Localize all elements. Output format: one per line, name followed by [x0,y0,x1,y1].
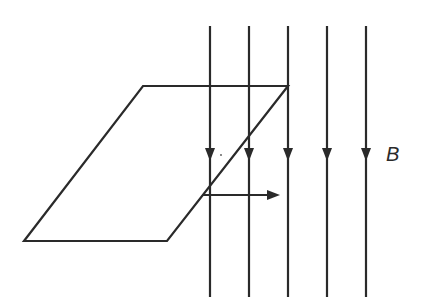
arrow-down-icon [244,148,254,161]
dot-mark [220,154,222,156]
magnetic-field-diagram [0,0,428,302]
arrow-down-icon [361,148,371,161]
arrow-down-icon [283,148,293,161]
field-label-b: B [386,144,399,164]
arrow-down-icon [205,148,215,161]
magnetic-field-lines [210,26,366,297]
velocity-arrow [203,190,280,200]
arrow-right-icon [267,190,280,200]
arrow-down-icon [322,148,332,161]
